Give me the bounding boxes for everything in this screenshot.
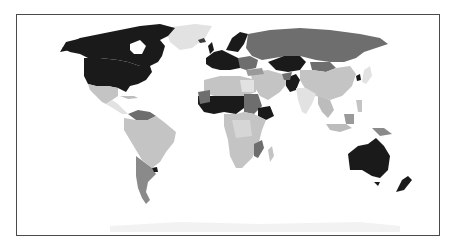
region-western-europe[interactable] xyxy=(206,50,244,70)
region-australia[interactable] xyxy=(348,138,390,178)
region-antarctica[interactable] xyxy=(110,222,400,232)
region-philippines[interactable] xyxy=(356,100,362,112)
region-brazil[interactable] xyxy=(124,116,176,168)
region-caribbean[interactable] xyxy=(120,96,138,99)
region-new-zealand[interactable] xyxy=(396,176,412,192)
region-alaska[interactable] xyxy=(60,38,92,52)
region-tasmania[interactable] xyxy=(374,182,380,186)
region-central-america[interactable] xyxy=(106,100,128,114)
region-libya[interactable] xyxy=(240,80,254,92)
region-madagascar[interactable] xyxy=(268,146,274,162)
region-scandinavia[interactable] xyxy=(226,32,248,52)
region-kazakhstan[interactable] xyxy=(268,56,306,72)
region-indonesia[interactable] xyxy=(326,124,352,132)
region-north-korea[interactable] xyxy=(356,74,361,81)
world-map xyxy=(0,0,457,251)
region-mauritania[interactable] xyxy=(198,90,210,104)
region-japan[interactable] xyxy=(362,66,372,84)
region-uk[interactable] xyxy=(208,42,214,54)
region-russia[interactable] xyxy=(246,28,388,62)
region-borneo[interactable] xyxy=(344,114,354,124)
region-papua-new-guinea[interactable] xyxy=(372,128,392,136)
region-eastern-europe[interactable] xyxy=(238,56,258,70)
